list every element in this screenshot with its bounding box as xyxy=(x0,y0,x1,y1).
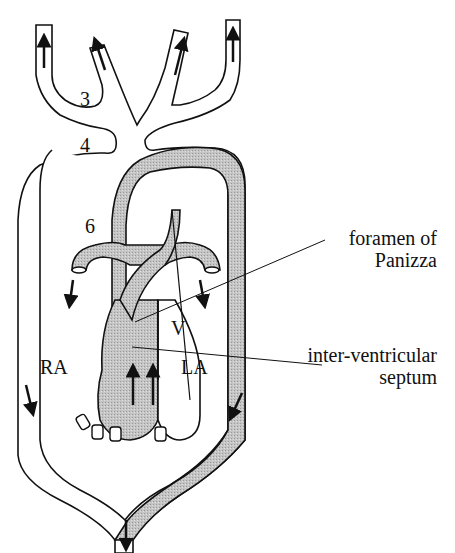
septum-line2: septum xyxy=(307,367,437,387)
label-ventricle: V xyxy=(171,318,185,338)
foramen-callout: foramen of Panizza xyxy=(349,228,437,270)
label-left-atrium: LA xyxy=(181,357,208,377)
diagram-drawing xyxy=(0,0,455,553)
septum-line1: inter-ventricular xyxy=(307,345,437,365)
circulation-diagram: 3 4 6 V RA LA foramen of Panizza inter-v… xyxy=(0,0,455,553)
foramen-line1: foramen of xyxy=(349,228,437,248)
label-arch-4: 4 xyxy=(80,135,90,155)
foramen-line2: Panizza xyxy=(349,250,437,270)
label-right-atrium: RA xyxy=(40,357,68,377)
septum-callout: inter-ventricular septum xyxy=(307,345,437,387)
label-arch-3: 3 xyxy=(80,89,90,109)
label-arch-6: 6 xyxy=(85,216,95,236)
